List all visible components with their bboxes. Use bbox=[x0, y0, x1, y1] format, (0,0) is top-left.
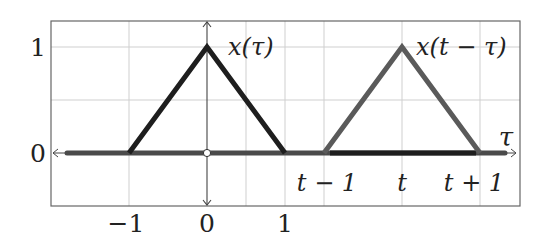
y-tick-1: 1 bbox=[30, 33, 46, 62]
label-x-tau: x(τ) bbox=[228, 33, 274, 61]
convolution-diagram: 1 0 −1 0 1 t − 1 t t + 1 x(τ) x(t − τ) τ bbox=[0, 0, 545, 247]
y-tick-0: 0 bbox=[30, 139, 46, 168]
origin-marker bbox=[203, 149, 210, 156]
x-tick-t-plus-1: t + 1 bbox=[444, 169, 504, 197]
axis-label-tau: τ bbox=[499, 122, 514, 152]
x-tick-t: t bbox=[397, 169, 407, 197]
x-tick-0: 0 bbox=[199, 209, 215, 238]
x-tick-1: 1 bbox=[277, 209, 293, 238]
x-tick-neg1: −1 bbox=[108, 209, 145, 238]
label-x-t-minus-tau: x(t − τ) bbox=[416, 33, 507, 61]
x-tick-t-minus-1: t − 1 bbox=[297, 169, 357, 197]
